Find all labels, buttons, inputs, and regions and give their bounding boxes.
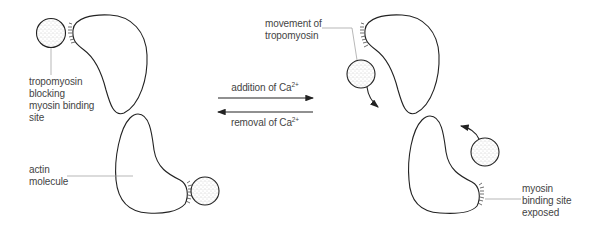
movement-arrow-down [367,87,378,107]
myosin-binding-site-hairs [360,23,368,47]
label-actin-molecule: actin molecule [29,164,68,188]
movement-arrow-up [461,126,479,139]
label-addition-of-calcium: addition of Ca2+ [210,82,320,94]
tropomyosin-moved-bottom [471,138,499,166]
label-tropomyosin-blocking: tropomyosin blocking myosin binding site [29,76,94,124]
label-movement-of-tropomyosin: movement of tropomyosin [265,18,322,42]
tropomyosin-blocking-bottom [191,177,219,205]
tropomyosin-blocking [37,19,66,48]
tropomyosin-moved-top [347,60,375,88]
actin-molecule-top-right [360,15,439,114]
label-removal-of-calcium: removal of Ca2+ [210,117,320,129]
label-myosin-binding-site-exposed: myosin binding site exposed [522,183,571,219]
leader-movement [322,28,357,60]
actin-molecule-bottom-left [116,114,192,213]
